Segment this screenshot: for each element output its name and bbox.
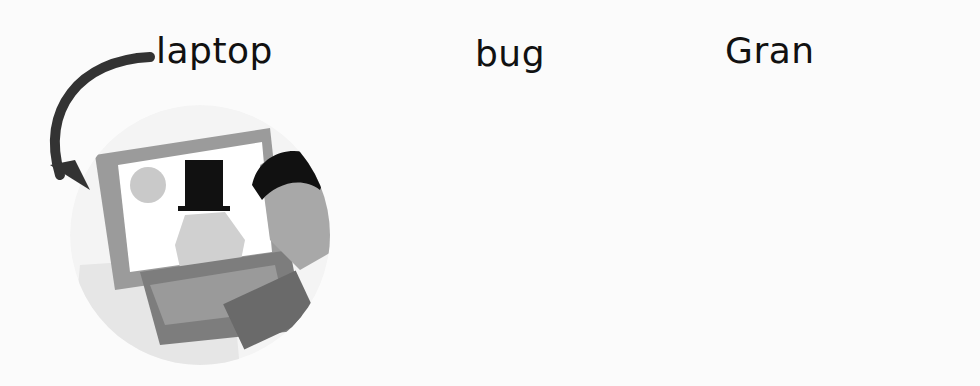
word-label-gran: Gran [725,30,815,71]
laptop-illustration [50,57,335,370]
word-label-laptop: laptop [156,30,273,71]
word-label-bug: bug [475,33,545,74]
